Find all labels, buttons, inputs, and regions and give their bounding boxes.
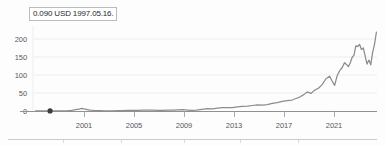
x-tick-label-2021: 2021 [326,121,342,130]
y-tick-label-100: 100 [15,71,27,80]
x-tick-label-2013: 2013 [226,121,242,130]
rail-divider-4 [240,140,241,143]
price-history-chart[interactable]: 200 150 100 50 0 2001 2005 2009 2013 201… [0,0,385,146]
y-tick-label-50: 50 [19,89,27,98]
rail-divider-2 [121,140,122,143]
x-tick-label-2009: 2009 [176,121,192,130]
tooltip-label: 0.090 USD 1997.05.16. [33,10,113,18]
x-axis-tick-labels: 2001 2005 2009 2013 2017 2021 [76,121,342,130]
x-tick-label-2017: 2017 [276,121,292,130]
price-line-series [35,32,376,111]
selected-point-marker[interactable] [47,108,52,113]
chart-plot-area[interactable]: 200 150 100 50 0 2001 2005 2009 2013 201… [0,0,385,146]
x-tick-label-2001: 2001 [76,121,92,130]
x-axis-ticks [85,112,335,118]
gridlines [33,26,377,111]
rail-divider-3 [184,140,185,143]
rail-divider-1 [63,140,64,143]
rail-divider-5 [298,140,299,143]
range-selector-rail[interactable] [8,139,377,142]
y-axis-tick-labels: 200 150 100 50 0 [15,35,27,116]
x-tick-label-2005: 2005 [126,121,142,130]
price-tooltip: 0.090 USD 1997.05.16. [29,7,117,21]
y-tick-label-200: 200 [15,35,27,44]
y-tick-label-150: 150 [15,53,27,62]
